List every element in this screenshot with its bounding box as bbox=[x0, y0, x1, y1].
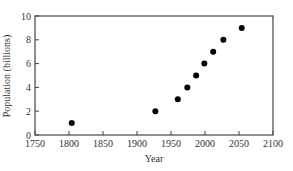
y-tick-label: 6 bbox=[26, 58, 31, 69]
data-point bbox=[152, 108, 158, 114]
y-tick-label: 10 bbox=[21, 11, 31, 22]
x-tick-label: 2050 bbox=[229, 138, 249, 149]
x-axis-ticks: 17501800185019001950200020502100 bbox=[25, 131, 283, 149]
x-tick-label: 2000 bbox=[195, 138, 215, 149]
axes bbox=[35, 16, 273, 135]
y-axis-label: Population (billions) bbox=[1, 35, 13, 118]
data-point bbox=[184, 84, 190, 90]
data-points bbox=[69, 25, 245, 126]
y-tick-label: 8 bbox=[26, 34, 31, 45]
x-axis-label: Year bbox=[145, 153, 164, 164]
data-point bbox=[193, 73, 199, 79]
x-tick-label: 1950 bbox=[161, 138, 181, 149]
plot-frame bbox=[35, 16, 273, 135]
data-point bbox=[201, 61, 207, 67]
y-tick-label: 4 bbox=[26, 82, 31, 93]
data-point bbox=[220, 37, 226, 43]
data-point bbox=[239, 25, 245, 31]
y-axis-ticks: 0246810 bbox=[21, 11, 39, 141]
x-tick-label: 1900 bbox=[127, 138, 147, 149]
data-point bbox=[69, 120, 75, 126]
data-point bbox=[175, 96, 181, 102]
y-tick-label: 2 bbox=[26, 106, 31, 117]
x-tick-label: 1850 bbox=[93, 138, 113, 149]
x-tick-label: 1800 bbox=[59, 138, 79, 149]
population-scatter-chart: 0246810 17501800185019001950200020502100… bbox=[0, 0, 293, 171]
x-tick-label: 2100 bbox=[263, 138, 283, 149]
x-tick-label: 1750 bbox=[25, 138, 45, 149]
data-point bbox=[210, 49, 216, 55]
plot-area: 0246810 17501800185019001950200020502100… bbox=[0, 0, 293, 171]
